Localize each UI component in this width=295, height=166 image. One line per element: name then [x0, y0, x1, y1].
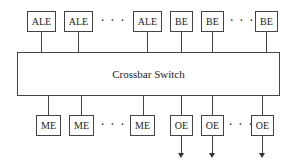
connector-line	[143, 96, 144, 115]
ale-label: ALE	[138, 16, 157, 27]
connector-line	[181, 32, 182, 52]
ellipsis-dots: · · ·	[101, 15, 126, 26]
connector-line	[266, 32, 267, 52]
connector-line	[212, 32, 213, 52]
arrow-down-icon	[178, 153, 184, 158]
output-line	[181, 136, 182, 154]
connector-line	[81, 96, 82, 115]
be-label: BE	[206, 16, 219, 27]
connector-line	[78, 32, 79, 52]
ellipsis-dots: · · ·	[101, 119, 126, 130]
connector-line	[41, 32, 42, 52]
be-label: BE	[175, 16, 188, 27]
me-label: ME	[41, 120, 56, 131]
arrow-down-icon	[259, 153, 265, 158]
output-line	[212, 136, 213, 154]
connector-line	[181, 96, 182, 115]
crossbar-switch: Crossbar Switch	[17, 52, 280, 96]
oe-box-2: OE	[201, 115, 224, 136]
connector-line	[262, 96, 263, 115]
be-box-2: BE	[201, 11, 224, 32]
oe-label: OE	[256, 120, 269, 131]
be-label: BE	[260, 16, 273, 27]
ale-box-3: ALE	[133, 11, 162, 32]
me-label: ME	[74, 120, 89, 131]
me-box-3: ME	[130, 115, 155, 136]
connector-line	[212, 96, 213, 115]
ale-box-2: ALE	[64, 11, 93, 32]
ale-label: ALE	[32, 16, 51, 27]
output-line	[262, 136, 263, 154]
oe-box-3: OE	[251, 115, 274, 136]
ale-label: ALE	[69, 16, 88, 27]
be-box-3: BE	[255, 11, 278, 32]
ale-box-1: ALE	[27, 11, 56, 32]
ellipsis-dots: · · ·	[230, 15, 255, 26]
oe-label: OE	[175, 120, 188, 131]
connector-line	[48, 96, 49, 115]
me-box-2: ME	[69, 115, 94, 136]
arrow-down-icon	[209, 153, 215, 158]
me-label: ME	[135, 120, 150, 131]
oe-label: OE	[206, 120, 219, 131]
me-box-1: ME	[36, 115, 61, 136]
connector-line	[147, 32, 148, 52]
crossbar-switch-label: Crossbar Switch	[112, 68, 184, 80]
oe-box-1: OE	[170, 115, 193, 136]
be-box-1: BE	[170, 11, 193, 32]
